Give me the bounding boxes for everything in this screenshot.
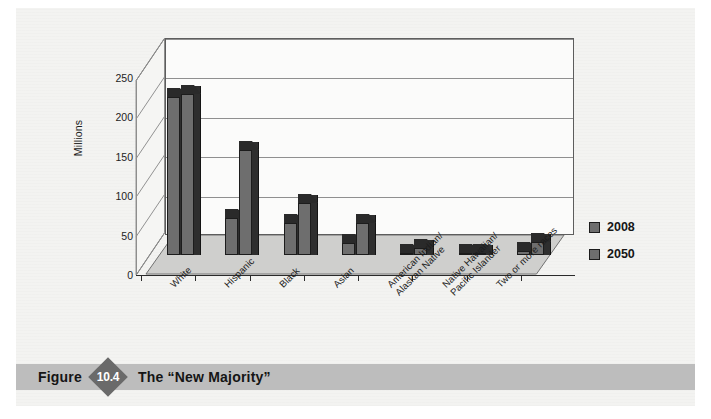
chart-legend: 20082050 [589, 220, 635, 274]
figure-number-diamond: 10.4 [90, 359, 126, 395]
legend-swatch-icon [589, 249, 600, 260]
y-axis-tick-0: 0 [127, 269, 133, 281]
x-axis-tick-0 [141, 276, 142, 281]
legend-label: 2008 [607, 220, 635, 234]
legend-item-2050: 2050 [589, 247, 635, 261]
y-axis-tick-250: 250 [115, 72, 133, 84]
x-axis-tick-2 [250, 276, 251, 281]
x-axis-tick-3 [304, 276, 305, 281]
y-axis-tick-200: 200 [115, 111, 133, 123]
figure-caption-bar: Figure 10.4 The “New Majority” [16, 364, 695, 390]
legend-swatch-icon [589, 222, 600, 233]
figure-number: 10.4 [97, 370, 120, 384]
plot-panel [165, 38, 574, 235]
figure-title: The “New Majority” [138, 369, 271, 385]
y-axis-tick-100: 100 [115, 190, 133, 202]
legend-item-2008: 2008 [589, 220, 635, 234]
figure-caption: Figure 10.4 The “New Majority” [38, 364, 271, 390]
legend-label: 2050 [607, 247, 635, 261]
y-axis-tick-labels: 050100150200250 [76, 24, 133, 284]
page: Millions 050100150200250 [0, 0, 711, 419]
scanned-page-surface: Millions 050100150200250 [16, 8, 695, 406]
y-axis-tick-150: 150 [115, 151, 133, 163]
figure-label: Figure [38, 369, 82, 385]
x-axis-tick-7 [521, 276, 522, 281]
bar-chart: Millions 050100150200250 [76, 24, 666, 334]
y-axis-tick-50: 50 [121, 230, 133, 242]
x-axis-tick-1 [195, 276, 196, 281]
x-axis-tick-4 [358, 276, 359, 281]
